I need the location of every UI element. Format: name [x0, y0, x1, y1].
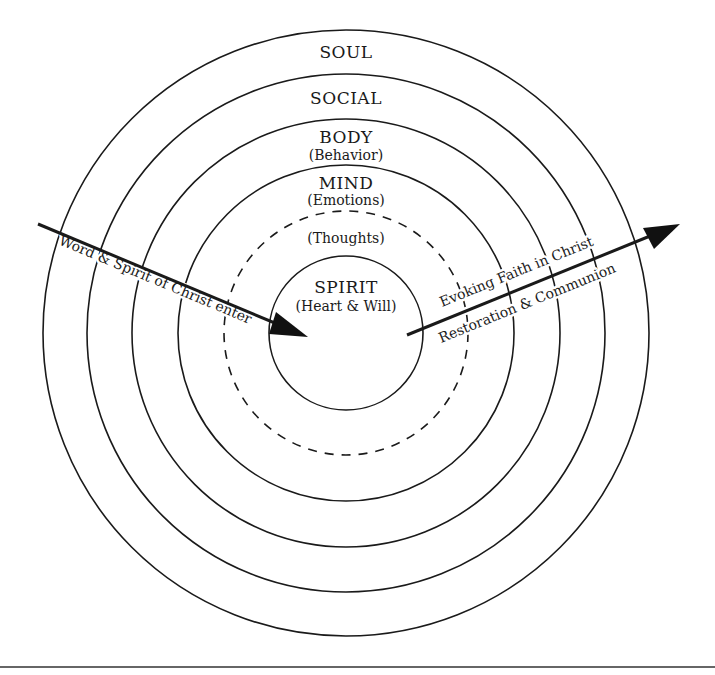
concentric-layers-diagram: SOUL SOCIAL BODY (Behavior) MIND (Emotio…: [0, 0, 715, 675]
ring-soul: [43, 30, 649, 636]
arrow-head-icon: [269, 312, 308, 337]
ring-thoughts: [224, 211, 468, 455]
rings: [43, 30, 649, 636]
label-mind-sub: (Emotions): [307, 192, 385, 208]
label-soul: SOUL: [319, 42, 372, 62]
label-spirit-sub: (Heart & Will): [295, 298, 396, 314]
ring-labels: SOUL SOCIAL BODY (Behavior) MIND (Emotio…: [295, 42, 396, 314]
outward-arrow-shaft: [407, 234, 655, 335]
label-social: SOCIAL: [310, 88, 382, 108]
inward-arrow-shaft: [38, 224, 282, 326]
inward-arrow-label: Word & Spirit of Christ enter: [57, 232, 255, 327]
label-spirit: SPIRIT: [314, 277, 378, 297]
label-body: BODY: [319, 127, 373, 147]
label-thoughts: (Thoughts): [307, 230, 385, 246]
outward-arrow: Evoking Faith in Christ Restoration & Co…: [407, 224, 680, 346]
label-body-sub: (Behavior): [309, 147, 383, 163]
label-mind: MIND: [319, 173, 374, 193]
inward-arrow: Word & Spirit of Christ enter: [38, 224, 308, 337]
arrow-head-icon: [643, 224, 680, 249]
